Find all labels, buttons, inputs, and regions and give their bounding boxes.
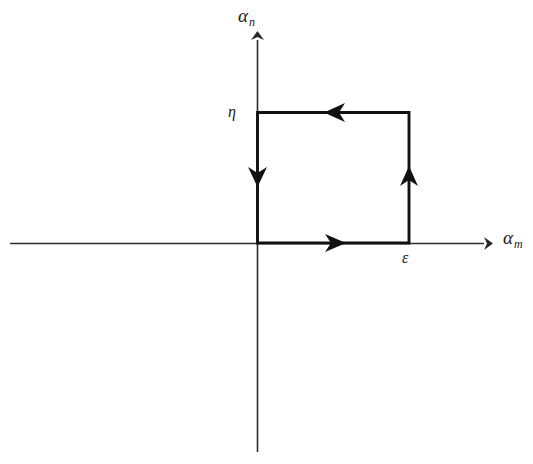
figure-canvas: αn αm η ε — [0, 0, 533, 464]
contour-rectangle — [258, 113, 410, 244]
vertical-axis-label: αn — [238, 6, 255, 28]
horizontal-axis-label-subscript: m — [514, 237, 523, 251]
contour-path — [248, 103, 418, 252]
vertical-axis-label-subscript: n — [249, 15, 255, 29]
vertical-axis-arrowhead — [251, 31, 264, 40]
horizontal-axis-arrowhead — [484, 237, 493, 250]
contour-diagram-svg — [0, 0, 533, 464]
eta-tick-label: η — [228, 104, 236, 120]
horizontal-axis — [10, 237, 493, 250]
horizontal-axis-label: αm — [503, 228, 523, 250]
epsilon-tick-label: ε — [402, 250, 408, 266]
horizontal-axis-label-symbol: α — [503, 227, 513, 248]
vertical-axis-label-symbol: α — [238, 5, 248, 26]
